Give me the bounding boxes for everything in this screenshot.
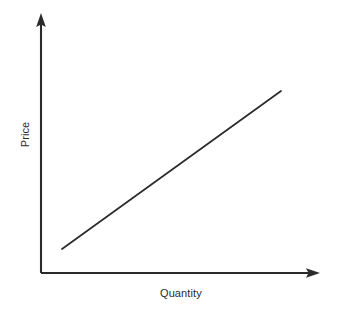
supply-curve-line: [62, 91, 281, 249]
supply-curve-chart: Price Quantity: [0, 0, 337, 317]
x-axis-label: Quantity: [160, 287, 202, 300]
y-axis-label: Price: [19, 122, 32, 148]
chart-canvas: [0, 0, 337, 317]
